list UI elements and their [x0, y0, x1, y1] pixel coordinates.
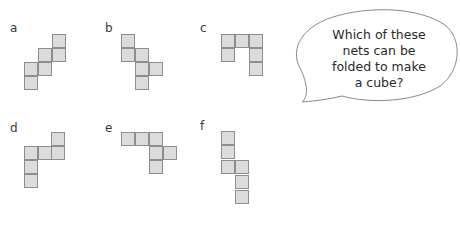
net-square [221, 131, 235, 145]
net-square [135, 132, 149, 146]
net-square [149, 146, 163, 160]
net-square [235, 175, 249, 189]
bubble-line-4: a cube? [318, 75, 440, 91]
net-label: a [10, 22, 17, 34]
net-square [249, 48, 263, 62]
net-square [163, 146, 177, 160]
net-square [24, 62, 38, 76]
net-square [135, 48, 149, 62]
net-square [221, 34, 235, 48]
net-square [52, 34, 66, 48]
net-square [51, 132, 65, 146]
net-square [149, 160, 163, 174]
bubble-line-3: folded to make [318, 59, 440, 75]
net-square [235, 160, 249, 174]
net-square [221, 160, 235, 174]
net-square [149, 132, 163, 146]
net-square [24, 174, 38, 188]
net-label: e [105, 122, 112, 134]
net-square [24, 76, 38, 90]
net-square [249, 34, 263, 48]
net-square [235, 190, 249, 204]
net-label: f [200, 120, 204, 132]
net-square [221, 145, 235, 159]
speech-bubble-text: Which of these nets can be folded to mak… [318, 27, 440, 91]
net-square [221, 48, 235, 62]
net-square [249, 62, 263, 76]
net-label: d [10, 122, 18, 134]
net-square [235, 34, 249, 48]
net-square [135, 76, 149, 90]
net-square [135, 62, 149, 76]
net-square [24, 146, 38, 160]
bubble-line-1: Which of these [318, 27, 440, 43]
net-square [51, 146, 65, 160]
net-label: c [200, 22, 207, 34]
bubble-line-2: nets can be [318, 43, 440, 59]
net-square [52, 48, 66, 62]
net-square [149, 62, 163, 76]
net-square [38, 62, 52, 76]
net-square [38, 48, 52, 62]
net-square [121, 132, 135, 146]
net-label: b [105, 22, 113, 34]
net-square [121, 34, 135, 48]
net-square [24, 160, 38, 174]
net-square [38, 146, 52, 160]
net-square [121, 48, 135, 62]
